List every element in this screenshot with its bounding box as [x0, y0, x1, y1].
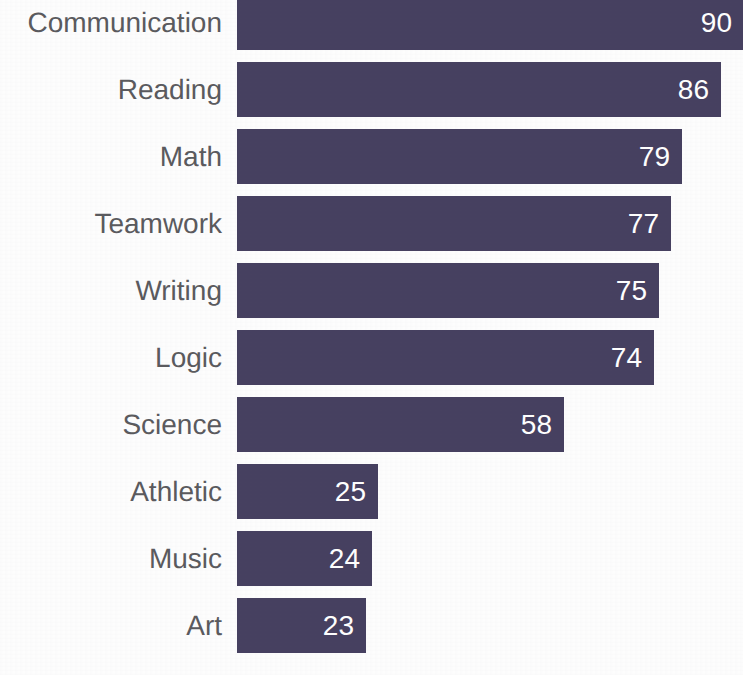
bar-row: Teamwork77 [0, 196, 743, 251]
bar-row: Logic74 [0, 330, 743, 385]
bar: 23 [237, 598, 366, 653]
bar-row: Reading86 [0, 62, 743, 117]
bar-value-label: 77 [628, 210, 671, 238]
category-label: Athletic [130, 464, 222, 519]
bar-value-label: 24 [329, 545, 372, 573]
bar-value-label: 90 [701, 9, 743, 37]
bar-value-label: 79 [639, 143, 682, 171]
bar: 79 [237, 129, 682, 184]
bar-value-label: 58 [521, 411, 564, 439]
bar-value-label: 74 [611, 344, 654, 372]
category-label: Music [149, 531, 222, 586]
bar-value-label: 23 [323, 612, 366, 640]
bar: 90 [237, 0, 743, 50]
category-label: Art [186, 598, 222, 653]
bar-chart: Communication90Reading86Math79Teamwork77… [0, 0, 743, 675]
bar: 25 [237, 464, 378, 519]
bar: 24 [237, 531, 372, 586]
category-label: Writing [135, 263, 222, 318]
bar-value-label: 86 [678, 76, 721, 104]
category-label: Logic [155, 330, 222, 385]
bar: 74 [237, 330, 654, 385]
category-label: Science [122, 397, 222, 452]
bar-value-label: 75 [616, 277, 659, 305]
bar-row: Athletic25 [0, 464, 743, 519]
bar-value-label: 25 [335, 478, 378, 506]
bar: 75 [237, 263, 659, 318]
bar-row: Writing75 [0, 263, 743, 318]
bar: 86 [237, 62, 721, 117]
category-label: Math [160, 129, 222, 184]
bar-row: Music24 [0, 531, 743, 586]
category-label: Reading [118, 62, 222, 117]
bar-row: Art23 [0, 598, 743, 653]
bar: 58 [237, 397, 564, 452]
bar-row: Science58 [0, 397, 743, 452]
bar-row: Communication90 [0, 0, 743, 50]
bar-row: Math79 [0, 129, 743, 184]
bar: 77 [237, 196, 671, 251]
category-label: Communication [27, 0, 222, 50]
category-label: Teamwork [94, 196, 222, 251]
